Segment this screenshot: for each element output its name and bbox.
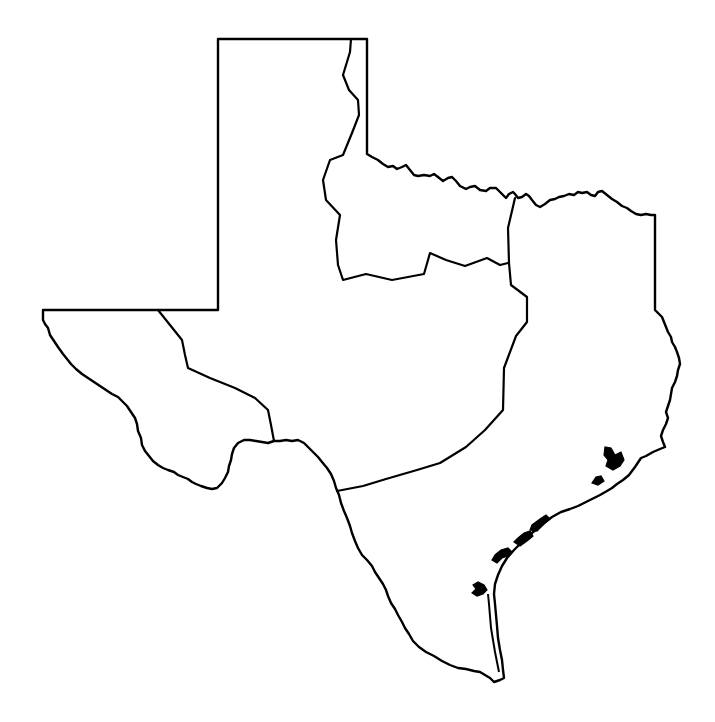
texas-state-outline [43,39,680,682]
texas-regions-map [0,0,715,722]
